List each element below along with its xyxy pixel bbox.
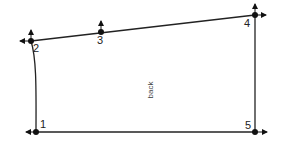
points — [28, 12, 258, 135]
point-1[interactable] — [33, 129, 39, 135]
arrow-icons — [20, 4, 267, 132]
point-5[interactable] — [252, 129, 258, 135]
edge-1-2 — [31, 41, 36, 132]
piece-label: back — [146, 81, 155, 99]
point-label-5: 5 — [245, 119, 251, 131]
point-label-3: 3 — [97, 34, 103, 46]
point-label-1: 1 — [40, 118, 46, 130]
pattern-diagram: 1 2 3 4 5 back — [0, 0, 281, 141]
point-label-4: 4 — [244, 17, 250, 29]
point-4[interactable] — [252, 12, 258, 18]
edge-2-4 — [31, 15, 255, 41]
point-label-2: 2 — [33, 42, 39, 54]
